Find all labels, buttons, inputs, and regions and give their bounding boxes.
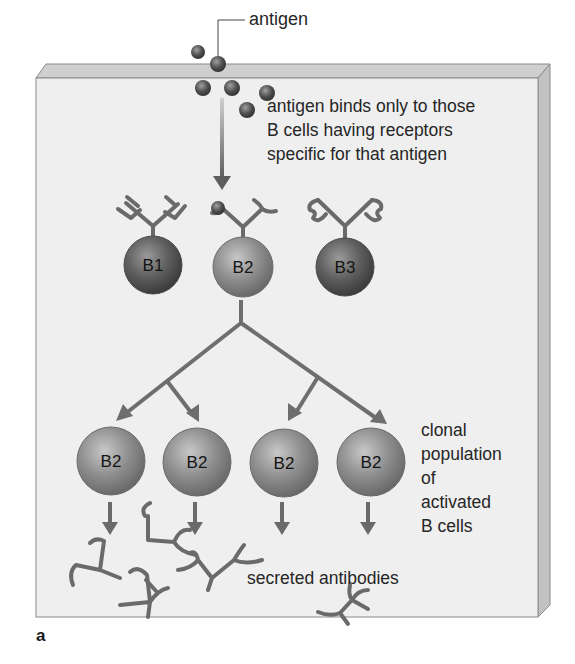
svg-text:B2: B2 <box>361 453 382 472</box>
antigen-particle <box>191 45 205 59</box>
svg-text:B1: B1 <box>143 256 164 275</box>
clone-cell: B2 <box>337 428 405 496</box>
b-cell-b3: B3 <box>316 238 374 296</box>
clonal-selection-diagram: antigen antigen binds only to those B ce… <box>0 0 575 664</box>
clone-cell: B2 <box>250 429 318 497</box>
antigen-particle <box>210 56 226 72</box>
secreted-antibodies-label: secreted antibodies <box>247 568 399 588</box>
bound-antigen <box>211 201 225 215</box>
antigen-particle <box>224 80 240 96</box>
initial-b-cells: B1 B2 B3 <box>124 236 374 297</box>
antigen-callout: antigen <box>218 9 308 58</box>
clone-cell: B2 <box>77 427 145 495</box>
svg-text:B2: B2 <box>233 258 254 277</box>
panel-right-side <box>538 64 550 617</box>
svg-text:B2: B2 <box>101 452 122 471</box>
svg-text:B3: B3 <box>335 258 356 277</box>
antigen-particle <box>195 80 211 96</box>
svg-text:B2: B2 <box>187 453 208 472</box>
b-cell-b1: B1 <box>124 236 182 294</box>
b-cell-b2: B2 <box>213 237 273 297</box>
antigen-particle <box>239 102 255 118</box>
panel-label: a <box>36 626 46 645</box>
panel-top-bevel <box>36 64 550 78</box>
antigen-label: antigen <box>249 9 308 29</box>
clone-cell: B2 <box>163 428 231 496</box>
svg-text:B2: B2 <box>274 454 295 473</box>
